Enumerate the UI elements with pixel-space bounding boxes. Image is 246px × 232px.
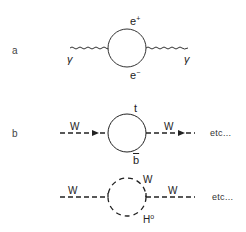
diagram-c xyxy=(60,178,195,216)
panel-label-b: b xyxy=(12,128,18,139)
w-in-label: W xyxy=(70,121,79,132)
etc-label-c: etc... xyxy=(212,192,233,202)
w-loop-label: W xyxy=(143,174,152,185)
w-in-label: W xyxy=(68,185,77,196)
positron-label: e+ xyxy=(130,16,140,27)
electron-loop xyxy=(108,29,146,67)
top-quark-label: t xyxy=(134,103,137,114)
w-out-label: W xyxy=(164,121,173,132)
photon-in-label: γ xyxy=(67,54,73,65)
w-higgs-loop xyxy=(108,178,146,216)
w-out-label: W xyxy=(168,185,177,196)
higgs-label: Ho xyxy=(143,214,154,225)
diagram-a xyxy=(70,29,188,67)
diagram-b xyxy=(60,114,195,152)
feynman-diagrams xyxy=(0,0,246,232)
photon-line-in xyxy=(70,47,108,49)
panel-label-a: a xyxy=(12,45,18,56)
etc-label-b: etc... xyxy=(210,128,231,138)
photon-out-label: γ xyxy=(184,54,190,65)
top-bottom-loop xyxy=(108,114,146,152)
arrow-out-icon xyxy=(178,130,185,136)
arrow-in-icon xyxy=(92,130,99,136)
electron-label: e− xyxy=(130,70,140,81)
photon-line-out xyxy=(146,47,188,49)
anti-bottom-label: b xyxy=(133,155,139,166)
